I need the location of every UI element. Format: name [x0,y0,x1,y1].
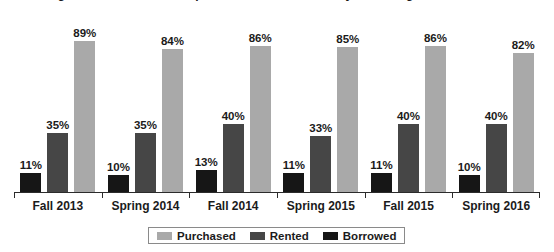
bar-purchased[interactable] [513,53,534,192]
bar-slot: 82% [513,8,534,192]
x-axis-label: Fall 2015 [365,199,453,213]
bar-slot: 11% [20,8,41,192]
bar-value-label: 82% [512,39,535,52]
x-axis-tick [102,192,103,198]
bar-value-label: 35% [134,119,157,132]
bar-slot: 84% [162,8,183,192]
legend-swatch-icon [157,232,172,240]
x-axis-category-labels: Fall 2013Spring 2014Fall 2014Spring 2015… [14,199,540,217]
bar-rented[interactable] [135,133,156,192]
bar-borrowed[interactable] [108,175,129,192]
bar-value-label: 85% [336,33,359,46]
bar-slot: 11% [283,8,304,192]
bar-slot: 10% [108,8,129,192]
x-axis-label: Spring 2015 [277,199,365,213]
bar-group: 11%40%86% [365,8,453,192]
bar-rented[interactable] [486,124,507,192]
bar-value-label: 10% [458,161,481,174]
x-axis-label: Fall 2014 [189,199,277,213]
bar-slot: 89% [74,8,95,192]
plot-area: 11%35%89%10%35%84%13%40%86%11%33%85%11%4… [14,8,540,192]
bar-group: 11%35%89% [14,8,102,192]
chart-title: Percentage of students who acquired cour… [4,0,550,3]
legend-item-borrowed[interactable]: Borrowed [323,230,397,242]
bar-group-bars: 10%40%82% [452,8,540,192]
x-axis-label: Spring 2014 [102,199,190,213]
bar-slot: 10% [459,8,480,192]
bar-value-label: 10% [107,161,130,174]
bar-value-label: 86% [249,32,272,45]
legend-label: Purchased [177,230,236,242]
bar-slot: 35% [135,8,156,192]
x-axis-tick [452,192,453,198]
legend-label: Borrowed [343,230,397,242]
bar-borrowed[interactable] [196,170,217,192]
bar-borrowed[interactable] [371,173,392,192]
chart-legend: PurchasedRentedBorrowed [148,227,405,244]
bar-value-label: 11% [283,159,305,172]
bar-slot: 13% [196,8,217,192]
bar-rented[interactable] [310,136,331,192]
legend-item-purchased[interactable]: Purchased [157,230,236,242]
bar-slot: 40% [486,8,507,192]
x-axis-tick [365,192,366,198]
bar-purchased[interactable] [250,46,271,192]
bar-rented[interactable] [223,124,244,192]
bar-group-bars: 11%35%89% [14,8,102,192]
bar-purchased[interactable] [337,47,358,192]
bar-slot: 33% [310,8,331,192]
x-axis-tick [14,192,15,198]
bar-slot: 86% [425,8,446,192]
bar-group: 13%40%86% [189,8,277,192]
bar-purchased[interactable] [162,49,183,192]
bar-group-bars: 11%33%85% [277,8,365,192]
bar-value-label: 11% [20,159,42,172]
bar-slot: 40% [398,8,419,192]
bar-group: 10%40%82% [452,8,540,192]
bar-value-label: 40% [397,110,420,123]
bar-group-bars: 13%40%86% [189,8,277,192]
legend-swatch-icon [323,232,338,240]
bar-borrowed[interactable] [283,173,304,192]
legend-item-rented[interactable]: Rented [250,230,309,242]
bar-value-label: 40% [222,110,245,123]
bar-purchased[interactable] [74,41,95,192]
bar-slot: 40% [223,8,244,192]
bar-slot: 86% [250,8,271,192]
x-axis-label: Spring 2016 [452,199,540,213]
bar-value-label: 89% [73,27,96,40]
x-axis-label: Fall 2013 [14,199,102,213]
legend-label: Rented [270,230,309,242]
bar-value-label: 35% [46,119,69,132]
bar-purchased[interactable] [425,46,446,192]
bar-group-bars: 11%40%86% [365,8,453,192]
x-axis-tick [277,192,278,198]
bar-slot: 35% [47,8,68,192]
bar-group: 10%35%84% [102,8,190,192]
bar-slot: 11% [371,8,392,192]
x-axis-tick [189,192,190,198]
x-axis-tick [539,192,540,198]
legend-swatch-icon [250,232,265,240]
bar-rented[interactable] [398,124,419,192]
bar-value-label: 33% [309,122,332,135]
bar-value-label: 11% [370,159,392,172]
bar-value-label: 13% [195,156,218,169]
bar-rented[interactable] [47,133,68,192]
bar-borrowed[interactable] [20,173,41,192]
bar-value-label: 84% [161,35,184,48]
bar-group: 11%33%85% [277,8,365,192]
bar-value-label: 86% [424,32,447,45]
bar-chart: Percentage of students who acquired cour… [0,0,554,252]
bar-slot: 85% [337,8,358,192]
bar-borrowed[interactable] [459,175,480,192]
bar-group-bars: 10%35%84% [102,8,190,192]
bar-value-label: 40% [485,110,508,123]
